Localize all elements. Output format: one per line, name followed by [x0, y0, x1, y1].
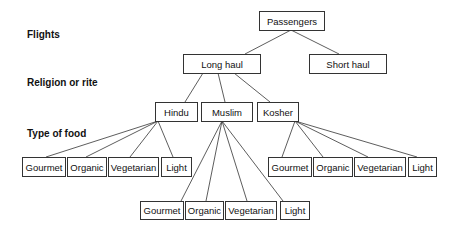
node-hindu-light: Light	[161, 157, 192, 177]
node-kosher-vegetarian: Vegetarian	[354, 157, 406, 177]
node-long-haul: Long haul	[183, 54, 261, 74]
level-label-food: Type of food	[27, 128, 86, 139]
node-kosher-light: Light	[408, 157, 437, 177]
node-hindu-vegetarian: Vegetarian	[108, 157, 159, 177]
node-muslim-vegetarian: Vegetarian	[225, 201, 277, 220]
node-kosher: Kosher	[257, 102, 299, 122]
node-hindu-organic: Organic	[67, 157, 107, 177]
node-hindu-gourmet: Gourmet	[22, 157, 66, 177]
node-passengers: Passengers	[259, 11, 325, 31]
tree-diagram: Flights Religion or rite Type of food Pa…	[0, 0, 462, 232]
node-muslim-organic: Organic	[185, 201, 224, 220]
node-short-haul: Short haul	[309, 54, 387, 74]
node-muslim-light: Light	[280, 201, 310, 220]
node-hindu: Hindu	[155, 102, 198, 122]
level-label-flights: Flights	[27, 29, 60, 40]
node-muslim-gourmet: Gourmet	[140, 201, 184, 220]
level-label-religion: Religion or rite	[27, 77, 98, 88]
node-kosher-gourmet: Gourmet	[268, 157, 312, 177]
node-kosher-organic: Organic	[313, 157, 353, 177]
node-muslim: Muslim	[201, 102, 253, 122]
